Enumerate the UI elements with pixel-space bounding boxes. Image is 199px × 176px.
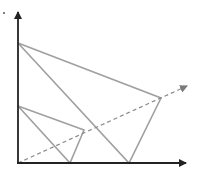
large-triangle [18, 43, 161, 163]
marker-dot [3, 12, 5, 14]
small-triangle [18, 106, 84, 163]
diagram-canvas [0, 0, 199, 176]
dashed-ray-arrow [18, 86, 187, 163]
diagram-svg [0, 0, 199, 176]
